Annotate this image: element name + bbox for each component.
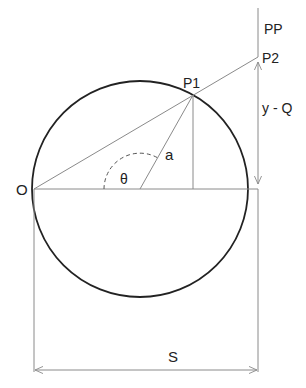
label-origin: O bbox=[16, 181, 28, 198]
diagram-canvas: O P1 P2 PP a θ y - Q S bbox=[0, 0, 306, 388]
label-p1: P1 bbox=[183, 75, 200, 91]
label-y-minus-q: y - Q bbox=[262, 100, 292, 116]
label-radius-a: a bbox=[165, 146, 174, 163]
geometry-diagram: O P1 P2 PP a θ y - Q S bbox=[0, 0, 306, 388]
label-s: S bbox=[168, 348, 178, 365]
label-p2: P2 bbox=[262, 50, 279, 66]
radius-line-a bbox=[140, 95, 193, 189]
label-angle-theta: θ bbox=[120, 171, 128, 187]
label-pp: PP bbox=[264, 21, 283, 37]
